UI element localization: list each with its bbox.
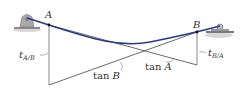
point-b-marker xyxy=(196,31,199,34)
label-tan-b: tan B xyxy=(93,70,120,81)
label-t-ba: tB/A xyxy=(208,47,224,60)
tangent-line-b xyxy=(49,32,197,85)
point-a-marker xyxy=(48,24,51,27)
beam-diagram: A B tA/B tB/A tan B tan A xyxy=(0,0,247,95)
label-tan-a: tan A xyxy=(145,61,172,72)
t-ba-leader xyxy=(199,52,206,53)
t-ab-leader xyxy=(40,53,48,55)
label-a: A xyxy=(44,9,52,20)
elastic-curve xyxy=(27,18,220,44)
label-b: B xyxy=(192,19,200,30)
tangent-line-a xyxy=(49,25,197,65)
left-pin-support-icon xyxy=(13,15,41,33)
tan-b-arc xyxy=(120,62,122,71)
label-t-ab: tA/B xyxy=(19,49,35,62)
